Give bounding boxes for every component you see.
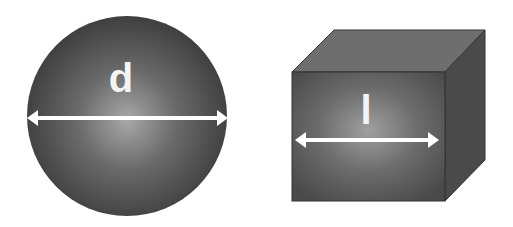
cube: l — [292, 30, 485, 201]
diagram-canvas: d l — [0, 0, 513, 227]
cube-length-label: l — [360, 88, 371, 132]
sphere-diameter-label: d — [109, 56, 133, 100]
sphere: d — [27, 16, 228, 216]
